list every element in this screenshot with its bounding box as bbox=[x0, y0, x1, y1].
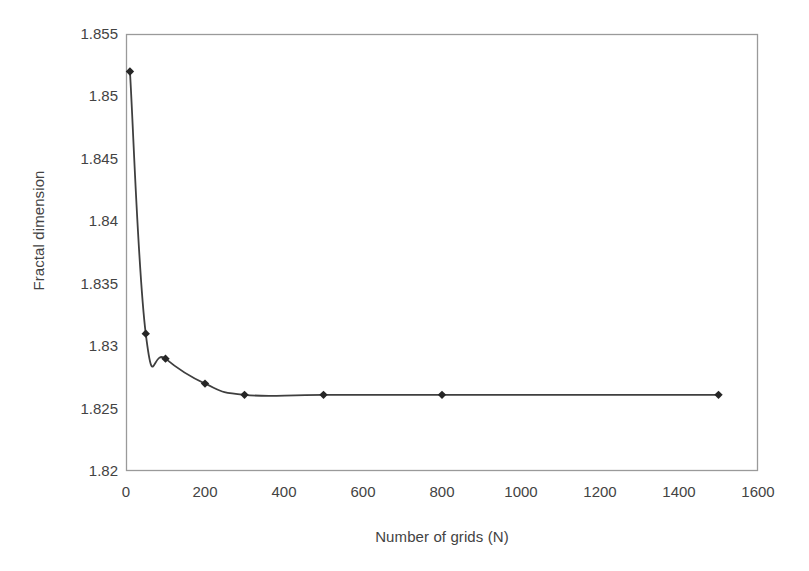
x-axis-tick-label: 200 bbox=[165, 484, 245, 499]
x-axis-tick-label: 800 bbox=[402, 484, 482, 499]
x-axis-tick-label: 400 bbox=[244, 484, 324, 499]
x-axis-tick-label: 1200 bbox=[560, 484, 640, 499]
x-axis-tick-label: 0 bbox=[86, 484, 166, 499]
x-axis-tick-label: 1400 bbox=[639, 484, 719, 499]
x-axis-tick-label: 1600 bbox=[718, 484, 798, 499]
x-axis-tick-label: 1000 bbox=[481, 484, 561, 499]
x-axis-tick-label: 600 bbox=[323, 484, 403, 499]
plot-background bbox=[126, 34, 758, 471]
x-axis-title: Number of grids (N) bbox=[126, 528, 758, 545]
chart-figure: Fractal dimension 1.821.8251.831.8351.84… bbox=[0, 0, 809, 571]
x-axis-tick-labels: 02004006008001000120014001600 bbox=[0, 484, 809, 508]
